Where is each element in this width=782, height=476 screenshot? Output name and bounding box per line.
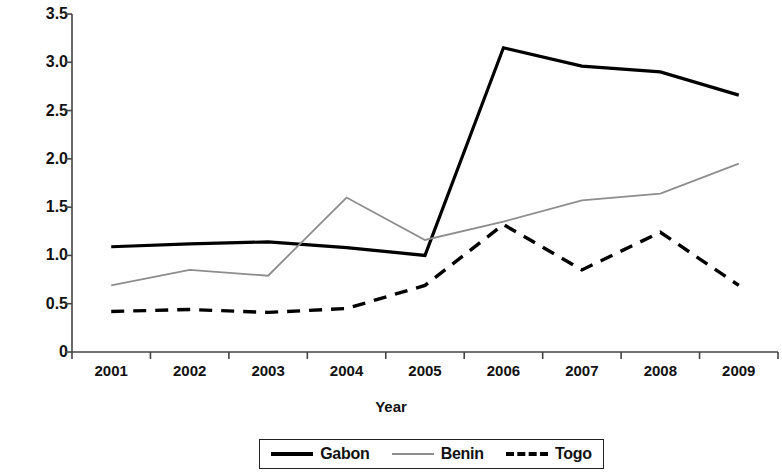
legend-label-togo: Togo bbox=[555, 445, 592, 463]
legend-label-gabon: Gabon bbox=[320, 445, 369, 463]
x-axis-title: Year bbox=[0, 398, 782, 415]
x-tick-label: 2001 bbox=[76, 362, 146, 379]
x-tick-label: 2007 bbox=[547, 362, 617, 379]
series-line-benin bbox=[111, 164, 739, 286]
legend-swatch-gabon bbox=[271, 448, 313, 460]
x-tick-label: 2002 bbox=[155, 362, 225, 379]
x-axis-ticks bbox=[72, 352, 778, 359]
x-tick-label: 2006 bbox=[468, 362, 538, 379]
x-tick-label: 2004 bbox=[312, 362, 382, 379]
chart-legend: Gabon Benin Togo bbox=[259, 439, 604, 469]
legend-swatch-benin bbox=[392, 448, 434, 460]
legend-swatch-togo bbox=[506, 448, 548, 460]
series-line-gabon bbox=[111, 48, 739, 256]
x-tick-label: 2005 bbox=[390, 362, 460, 379]
x-tick-label: 2009 bbox=[704, 362, 774, 379]
legend-item-togo[interactable]: Togo bbox=[506, 445, 592, 463]
y-axis-ticks bbox=[65, 14, 72, 352]
series-line-togo bbox=[111, 225, 739, 313]
line-chart: Cost recovery ratio 3.53.02.52.01.51.00.… bbox=[0, 0, 782, 476]
legend-item-gabon[interactable]: Gabon bbox=[271, 445, 369, 463]
legend-item-benin[interactable]: Benin bbox=[392, 445, 484, 463]
axis-lines bbox=[72, 14, 778, 352]
x-tick-label: 2003 bbox=[233, 362, 303, 379]
data-series-layer bbox=[111, 48, 739, 313]
legend-label-benin: Benin bbox=[441, 445, 484, 463]
x-tick-label: 2008 bbox=[625, 362, 695, 379]
